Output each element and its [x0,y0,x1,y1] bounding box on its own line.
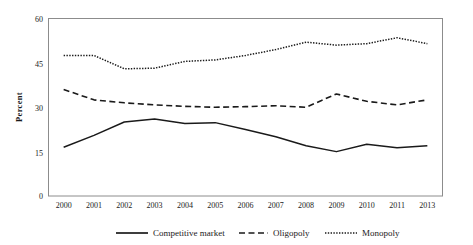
y-axis-title: Percent [14,92,24,122]
x-tick-labels: 2000200120022003200420052006200720082009… [56,201,436,210]
chart-figure: Percent 0 15 30 45 60 200020012002200320… [0,0,473,245]
x-tick-label: 2013 [419,201,435,210]
x-tick-label: 2003 [147,201,163,210]
x-tick-label: 2000 [56,201,72,210]
series-line-competitive-market [64,119,428,152]
legend-item-oligopoly[interactable]: Oligopoly [239,228,310,238]
legend-label: Competitive market [153,228,225,238]
y-tick-label: 30 [35,104,43,113]
y-tick-label: 60 [35,15,43,24]
x-tick-label: 2002 [116,201,132,210]
y-tick-label: 45 [35,60,43,69]
series-line-monopoly [64,38,428,69]
line-chart: Percent 0 15 30 45 60 200020012002200320… [0,0,473,245]
x-tick-label: 2006 [238,201,254,210]
x-tick-label: 2001 [86,201,102,210]
legend-label: Oligopoly [273,228,310,238]
x-tick-label: 2008 [298,201,314,210]
x-tick-label: 2010 [359,201,375,210]
y-tick-label: 0 [39,192,43,201]
x-tick-label: 2011 [389,201,405,210]
x-tick-label: 2007 [268,201,284,210]
x-tick-label: 2004 [177,201,193,210]
legend-item-monopoly[interactable]: Monopoly [325,228,400,238]
y-tick-label: 15 [35,149,43,158]
y-tick-labels: 0 15 30 45 60 [35,15,43,201]
legend-label: Monopoly [362,228,400,238]
x-tick-label: 2005 [207,201,223,210]
legend-item-competitive-market[interactable]: Competitive market [116,228,225,238]
series-line-oligopoly [64,90,428,108]
x-tick-label: 2009 [328,201,344,210]
chart-legend: Competitive market Oligopoly Monopoly [116,228,400,238]
